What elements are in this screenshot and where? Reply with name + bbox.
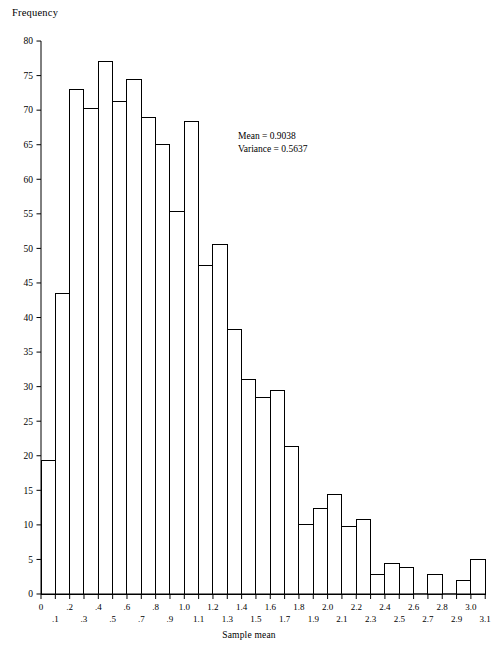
y-axis-tick-label: 65	[24, 140, 34, 150]
x-axis-tick-label: .5	[109, 614, 116, 624]
x-axis-tick-label: 3.0	[465, 602, 477, 612]
histogram-bar	[428, 575, 442, 594]
x-axis-tick-label: .4	[95, 602, 102, 612]
histogram-bar	[356, 519, 370, 594]
histogram-bar	[342, 527, 356, 594]
x-axis-tick-label: .1	[52, 614, 59, 624]
y-axis-tick-label: 5	[28, 555, 33, 565]
histogram-bar	[385, 564, 399, 594]
histogram-bar	[285, 446, 299, 594]
x-axis-tick-label: 2.0	[322, 602, 334, 612]
histogram-bar	[270, 391, 284, 594]
x-axis-tick-label: 2.1	[336, 614, 347, 624]
x-axis-tick-label: 1.8	[293, 602, 305, 612]
x-axis-tick-label: .8	[152, 602, 159, 612]
histogram-bar	[457, 581, 471, 594]
histogram-bar	[256, 397, 270, 594]
y-axis-tick-label: 0	[28, 589, 33, 599]
histogram-bar	[371, 575, 385, 594]
y-axis-tick-label: 30	[24, 382, 34, 392]
x-axis-tick-label: .9	[167, 614, 174, 624]
x-axis-tick-label: .2	[66, 602, 73, 612]
histogram-bar	[70, 89, 84, 594]
x-axis-tick-label: 1.7	[279, 614, 291, 624]
x-axis-tick-label: 2.6	[408, 602, 420, 612]
stats-annotation: Mean = 0.9038 Variance = 0.5637	[238, 130, 307, 156]
y-axis-tick-label: 35	[24, 347, 34, 357]
histogram-bar	[184, 122, 198, 594]
histogram-bar	[98, 61, 112, 594]
x-axis-tick-label: 1.1	[193, 614, 204, 624]
x-axis-tick-label: 1.4	[236, 602, 248, 612]
x-axis-title: Sample mean	[0, 630, 498, 640]
y-axis-tick-label: 40	[24, 313, 34, 323]
x-axis-tick-label: 2.3	[365, 614, 377, 624]
mean-annotation: Mean = 0.9038	[238, 130, 307, 143]
histogram-bar	[113, 102, 127, 594]
histogram-bar	[84, 109, 98, 594]
y-axis-tick-label: 50	[24, 244, 34, 254]
x-axis-tick-label: 1.0	[179, 602, 191, 612]
histogram-bar	[141, 117, 155, 594]
histogram-bar	[471, 559, 485, 594]
x-axis-tick-label: 1.3	[222, 614, 234, 624]
histogram-bar	[55, 293, 69, 594]
y-axis-tick-label: 15	[24, 486, 34, 496]
x-axis-tick-label: 1.5	[250, 614, 262, 624]
y-axis-tick-label: 70	[24, 105, 34, 115]
x-axis-tick-label: 2.2	[351, 602, 362, 612]
x-axis-tick-label: 1.9	[308, 614, 320, 624]
x-axis-tick-label: .3	[81, 614, 88, 624]
y-axis-tick-label: 20	[24, 451, 34, 461]
histogram-bar	[170, 212, 184, 594]
histogram-bar	[313, 509, 327, 594]
x-axis-tick-label: 2.9	[451, 614, 463, 624]
histogram-bar	[399, 567, 413, 594]
histogram-bar	[213, 245, 227, 594]
histogram-bar	[242, 379, 256, 594]
x-axis-tick-label: 2.5	[394, 614, 406, 624]
y-axis-tick-label: 25	[24, 417, 34, 427]
histogram-bar	[227, 330, 241, 594]
x-axis-tick-label: .7	[138, 614, 145, 624]
x-axis-tick-label: 1.2	[207, 602, 218, 612]
x-axis-tick-label: 3.1	[480, 614, 491, 624]
histogram-bar	[199, 266, 213, 594]
x-axis-tick-label: .6	[124, 602, 131, 612]
y-axis-tick-label: 55	[24, 209, 34, 219]
histogram-bar	[41, 461, 55, 594]
variance-annotation: Variance = 0.5637	[238, 143, 307, 156]
y-axis-tick-label: 80	[24, 36, 34, 46]
y-axis-tick-label: 10	[24, 520, 34, 530]
y-axis-tick-label: 45	[24, 278, 34, 288]
x-axis-tick-label: 2.7	[422, 614, 434, 624]
histogram-bar	[299, 525, 313, 594]
x-axis-tick-label: 0	[39, 602, 44, 612]
y-axis-tick-label: 75	[24, 71, 34, 81]
x-axis-tick-label: 2.4	[379, 602, 391, 612]
histogram-bar	[127, 80, 141, 594]
histogram-bar	[156, 144, 170, 594]
x-axis-tick-label: 1.6	[265, 602, 277, 612]
histogram-figure: Frequency 051015202530354045505560657075…	[0, 0, 498, 650]
x-axis-tick-label: 2.8	[437, 602, 449, 612]
y-axis-title: Frequency	[12, 7, 58, 18]
histogram-plot-area: 051015202530354045505560657075800.1.2.3.…	[0, 0, 498, 650]
y-axis-tick-label: 60	[24, 175, 34, 185]
histogram-bar	[328, 494, 342, 594]
